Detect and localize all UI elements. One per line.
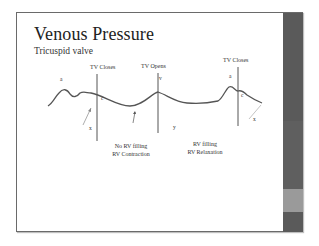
phase-caption-systole-line2: RV Contraction — [101, 150, 161, 158]
phase-caption-diastole: RV filling RV Relaxation — [175, 140, 235, 156]
wave-label-a-first: a — [60, 76, 62, 82]
wave-label-c-last: c — [241, 92, 243, 98]
phase-caption-systole: No RV filling RV Contraction — [101, 142, 161, 158]
wave-label-y: y — [173, 124, 176, 130]
phase-caption-systole-line1: No RV filling — [101, 142, 161, 150]
wave-label-c-first: c — [101, 95, 103, 101]
venous-pressure-waveform — [17, 13, 304, 233]
slide: Venous Pressure Tricuspid valve TV Close… — [16, 12, 303, 232]
tv-opens-label: TV Opens — [141, 63, 166, 69]
wave-label-v: v — [159, 75, 162, 81]
wave-label-x-last: x — [253, 116, 256, 122]
tv-closes-label-last: TV Closes — [223, 57, 248, 63]
phase-caption-diastole-line1: RV filling — [175, 140, 235, 148]
wave-label-x-first: x — [89, 125, 92, 131]
tv-closes-label-first: TV Closes — [90, 64, 115, 70]
phase-caption-diastole-line2: RV Relaxation — [175, 148, 235, 156]
wave-label-a-last: a — [229, 73, 231, 79]
jvp-curve — [48, 87, 262, 106]
